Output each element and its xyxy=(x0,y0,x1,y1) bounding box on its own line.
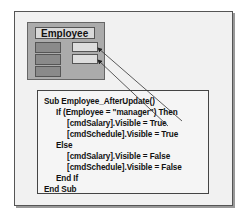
connector-arrows xyxy=(0,0,245,221)
